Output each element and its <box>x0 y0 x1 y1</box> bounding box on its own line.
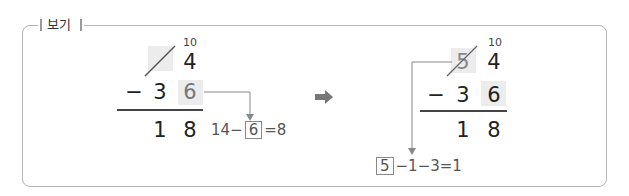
slash-mark-icon <box>143 42 179 78</box>
left-sum-line <box>117 109 203 111</box>
left-operator: − <box>122 80 146 104</box>
right-arrow-icon <box>315 90 335 104</box>
right-connector-arrow-icon <box>405 58 455 158</box>
right-ones-result: 8 <box>482 118 506 142</box>
left-equation-boxed: 6 <box>245 121 263 139</box>
right-equation: 5−1−3=1 <box>374 157 462 175</box>
right-equation-suffix: −1−3=1 <box>396 157 462 175</box>
left-borrow-mark: 10 <box>183 37 197 49</box>
example-label: 보기 <box>47 14 71 33</box>
right-borrow-mark: 10 <box>488 37 502 49</box>
example-box <box>22 25 607 187</box>
label-left-tick <box>40 19 42 31</box>
left-tens-sub: 3 <box>148 80 172 104</box>
left-ones-sub: 6 <box>178 80 202 104</box>
left-tens-result: 1 <box>148 118 172 142</box>
left-connector-arrow-icon <box>203 88 263 123</box>
right-equation-boxed: 5 <box>376 157 394 175</box>
label-right-tick <box>80 19 82 31</box>
left-ones-result: 8 <box>178 118 202 142</box>
right-ones-sub: 6 <box>482 83 506 107</box>
right-ones-top: 4 <box>482 50 506 74</box>
left-equation-suffix: =8 <box>264 121 286 139</box>
left-equation: 14−6=8 <box>211 121 286 139</box>
left-equation-prefix: 14− <box>211 121 243 139</box>
left-ones-top: 4 <box>178 50 202 74</box>
